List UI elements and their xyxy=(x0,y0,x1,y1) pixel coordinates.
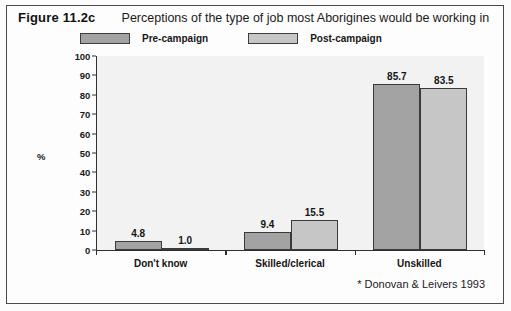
y-axis-tick-label: 20 xyxy=(80,206,90,217)
figure-footnote: * Donovan & Leivers 1993 xyxy=(357,278,485,290)
bar-slot: 15.5 xyxy=(291,56,338,250)
legend-item-label: Pre-campaign xyxy=(142,33,208,44)
bar-value-label: 85.7 xyxy=(387,71,406,82)
y-axis-tick: 100 xyxy=(58,51,96,62)
y-axis-tick: 90 xyxy=(58,70,96,81)
bar-group: 85.783.5 xyxy=(356,56,485,250)
y-axis-tick: 70 xyxy=(58,109,96,120)
x-axis-tick-mark xyxy=(96,250,97,255)
figure-container: Figure 11.2c Perceptions of the type of … xyxy=(0,0,511,311)
y-axis-tick-label: 90 xyxy=(80,70,90,81)
bar-value-label: 4.8 xyxy=(131,228,145,239)
y-axis-tick: 80 xyxy=(58,89,96,100)
legend-item: Pre-campaign xyxy=(80,33,208,44)
chart-plot-area: % 0102030405060708090100 4.81.09.415.585… xyxy=(18,56,490,256)
bar[interactable]: 9.4 xyxy=(244,232,291,250)
y-axis-tick-label: 10 xyxy=(80,225,90,236)
bars-layer: 4.81.09.415.585.783.5 xyxy=(97,56,484,250)
bar[interactable]: 4.8 xyxy=(115,241,162,250)
x-axis-tick-mark xyxy=(484,250,485,255)
y-axis-tick: 20 xyxy=(58,206,96,217)
y-axis-tick-label: 60 xyxy=(80,128,90,139)
bar[interactable]: 83.5 xyxy=(420,88,467,250)
y-axis-ticks: 0102030405060708090100 xyxy=(58,56,96,250)
x-axis-category-label: Skilled/clerical xyxy=(255,258,325,269)
bar-slot: 9.4 xyxy=(244,56,291,250)
x-axis-ticks xyxy=(96,250,484,256)
y-axis-tick: 60 xyxy=(58,128,96,139)
bar-value-label: 15.5 xyxy=(305,207,324,218)
legend-swatch-icon xyxy=(80,33,130,44)
figure-number: Figure 11.2c xyxy=(18,10,96,25)
bar-value-label: 1.0 xyxy=(178,235,192,246)
y-axis-tick: 10 xyxy=(58,225,96,236)
legend-item-label: Post-campaign xyxy=(310,33,382,44)
y-axis-tick: 30 xyxy=(58,186,96,197)
bar-group: 4.81.0 xyxy=(97,56,226,250)
y-axis-tick-label: 40 xyxy=(80,167,90,178)
bar[interactable]: 85.7 xyxy=(373,84,420,250)
x-axis-labels: Don't knowSkilled/clericalUnskilled xyxy=(18,258,490,274)
x-axis-category-label: Don't know xyxy=(134,258,187,269)
y-axis-tick-label: 50 xyxy=(80,148,90,159)
bar-slot: 83.5 xyxy=(420,56,467,250)
bar-slot: 1.0 xyxy=(162,56,209,250)
y-axis-tick: 40 xyxy=(58,167,96,178)
bar-slot: 4.8 xyxy=(115,56,162,250)
legend-swatch-icon xyxy=(248,33,298,44)
y-axis-tick: 0 xyxy=(58,245,96,256)
bar-value-label: 83.5 xyxy=(434,75,453,86)
y-axis-tick-label: 30 xyxy=(80,186,90,197)
legend-item: Post-campaign xyxy=(248,33,382,44)
bar-slot: 85.7 xyxy=(373,56,420,250)
bar-value-label: 9.4 xyxy=(261,219,275,230)
x-axis-tick-mark xyxy=(225,250,226,255)
x-axis-tick-mark xyxy=(355,250,356,255)
bar-group: 9.415.5 xyxy=(226,56,355,250)
bar[interactable]: 15.5 xyxy=(291,220,338,250)
figure-caption: Perceptions of the type of job most Abor… xyxy=(122,11,490,25)
y-axis-tick: 50 xyxy=(58,148,96,159)
figure-header: Figure 11.2c Perceptions of the type of … xyxy=(18,10,488,30)
y-axis-unit-label: % xyxy=(37,151,45,162)
y-axis-tick-label: 100 xyxy=(75,51,90,62)
plot-frame: 4.81.09.415.585.783.5 xyxy=(96,56,484,251)
chart-legend: Pre-campaignPost-campaign xyxy=(80,33,382,44)
y-axis-tick-label: 0 xyxy=(85,245,90,256)
x-axis-category-label: Unskilled xyxy=(397,258,441,269)
y-axis-tick-label: 80 xyxy=(80,89,90,100)
y-axis-tick-label: 70 xyxy=(80,109,90,120)
